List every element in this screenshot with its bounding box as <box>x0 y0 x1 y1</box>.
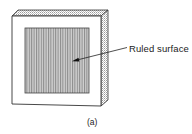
block-top-face <box>12 10 108 16</box>
figure-caption: (a) <box>87 117 97 127</box>
block-side-face <box>101 10 108 106</box>
ruled-area <box>25 28 89 93</box>
callout-label: Ruled surface <box>129 43 189 54</box>
grating-diagram <box>0 0 192 134</box>
